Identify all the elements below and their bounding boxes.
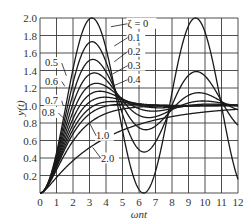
annotation-leader (111, 24, 128, 27)
x-tick-label: 7 (153, 196, 159, 208)
annotation-label: 0.2 (127, 46, 140, 57)
annotation-leader (114, 38, 127, 46)
y-tick-label: 1.2 (23, 82, 37, 94)
x-tick-label: 10 (200, 196, 212, 208)
annotation-label: 1.0 (96, 130, 109, 141)
y-axis-ticks: 0.20.40.60.81.01.21.41.61.82.0 (23, 12, 37, 182)
x-tick-label: 1 (54, 196, 60, 208)
annotation-label: 0.3 (127, 60, 140, 71)
x-tick-label: 12 (233, 196, 244, 208)
y-tick-label: 0.4 (23, 152, 37, 164)
x-tick-label: 8 (169, 196, 175, 208)
x-tick-label: 5 (120, 196, 126, 208)
y-tick-label: 1.8 (23, 30, 37, 42)
annotation-label: 0.6 (45, 76, 58, 87)
annotation-label: 0.4 (127, 74, 141, 85)
annotation-label: 2.0 (101, 153, 114, 164)
x-axis-ticks: 0123456789101112 (37, 196, 243, 208)
x-tick-label: 2 (70, 196, 76, 208)
step-response-chart: ζ = 00.10.20.30.40.50.60.70.81.02.0 0123… (0, 0, 251, 224)
y-tick-label: 0.2 (23, 170, 37, 182)
annotation-label: 0.5 (45, 57, 58, 68)
annotation-leader (113, 80, 128, 87)
x-tick-label: 0 (37, 196, 43, 208)
x-axis-label: ωnt (131, 208, 148, 220)
annotation-leader (62, 63, 67, 76)
x-tick-label: 6 (136, 196, 142, 208)
x-tick-label: 11 (216, 196, 227, 208)
y-tick-label: 1.4 (23, 65, 37, 77)
y-tick-label: 2.0 (23, 12, 37, 24)
annotation-label: 0.1 (127, 32, 140, 43)
y-axis-label: y(t) (14, 100, 27, 117)
annotation-label: 0.7 (45, 95, 58, 106)
y-tick-label: 1.6 (23, 47, 37, 59)
y-tick-label: 0.6 (23, 135, 37, 147)
annotation-leader (113, 66, 128, 74)
annotation-label: ζ = 0 (127, 18, 148, 30)
annotation-leader (93, 148, 101, 159)
y-tick-label: 0.8 (23, 117, 37, 129)
x-tick-label: 3 (87, 196, 93, 208)
x-tick-label: 4 (103, 196, 109, 208)
x-tick-label: 9 (186, 196, 192, 208)
annotation-label: 0.8 (42, 107, 55, 118)
